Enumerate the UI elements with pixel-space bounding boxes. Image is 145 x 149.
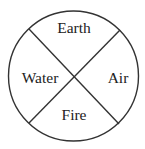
- four-elements-diagram: Earth Water Air Fire: [0, 0, 145, 149]
- quadrant-label-air: Air: [108, 69, 130, 86]
- quadrant-label-fire: Fire: [62, 106, 87, 123]
- diagram-canvas: Earth Water Air Fire: [0, 0, 145, 149]
- quadrant-label-water: Water: [22, 69, 59, 86]
- quadrant-label-earth: Earth: [57, 19, 91, 36]
